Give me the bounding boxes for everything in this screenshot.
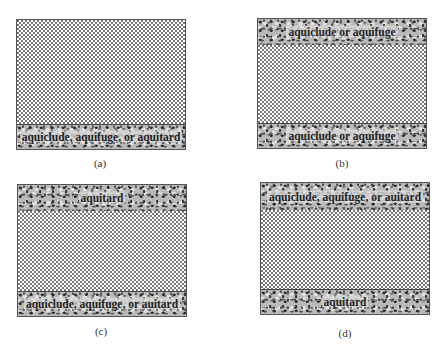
- aquifer-layer: [258, 45, 426, 123]
- confining-layer-top: aquitard: [18, 185, 186, 212]
- confining-layer-bottom: aquiclude or aquifuge: [258, 123, 426, 148]
- layer-label: aquiclude, aquifuge, or aquitard: [20, 131, 183, 143]
- layer-label: aquiclude or aquifuge: [286, 26, 397, 38]
- aquifer-layer: [17, 20, 185, 124]
- confining-layer-bottom: aquiclude, aquifuge, or aquitard: [17, 124, 185, 149]
- confining-layer-bottom: aquitard: [261, 289, 429, 314]
- panel-a: aquiclude, aquifuge, or aquitard: [16, 19, 186, 150]
- confining-layer-top: aquiclude or aquifuge: [258, 19, 426, 46]
- caption-d: (d): [325, 327, 365, 339]
- panel-b: aquiclude or aquifuge aquiclude or aquif…: [257, 18, 427, 149]
- aquifer-layer: [18, 211, 186, 291]
- panel-c: aquitard aquiclude, aquifuge, or auitard: [17, 184, 187, 317]
- layer-label: aquitard: [79, 192, 126, 204]
- confining-layer-bottom: aquiclude, aquifuge, or auitard: [18, 291, 186, 316]
- layer-label: aquitard: [322, 296, 369, 308]
- layer-label: aquiclude, aquifuge, or auitard: [24, 298, 180, 310]
- layer-label: aquiclude or aquifuge: [286, 130, 397, 142]
- layer-label: aquiclude, aquifuge, or auitard: [267, 190, 423, 202]
- caption-c: (c): [81, 325, 121, 337]
- aquifer-layer: [261, 210, 429, 289]
- caption-b: (b): [322, 157, 362, 169]
- confining-layer-top: aquiclude, aquifuge, or auitard: [261, 183, 429, 211]
- caption-a: (a): [80, 157, 120, 169]
- panel-d: aquiclude, aquifuge, or auitard aquitard: [260, 182, 430, 315]
